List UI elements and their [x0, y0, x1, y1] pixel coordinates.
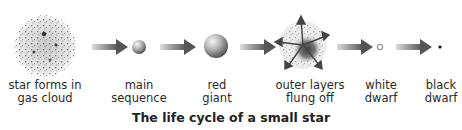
arrow-icon: [396, 39, 432, 55]
red-giant-star-icon: [204, 34, 228, 58]
label-line: flung off: [275, 92, 344, 105]
planetary-nebula-icon: [275, 16, 329, 69]
label-line: giant: [202, 92, 231, 105]
diagram-caption: The life cycle of a small star: [0, 110, 462, 125]
stage-label-red-giant: red giant: [202, 79, 231, 105]
gas-cloud-icon: [12, 13, 78, 79]
arrow-icon: [337, 39, 373, 55]
star-life-cycle-diagram: [0, 0, 462, 80]
white-dwarf-icon: [377, 44, 382, 49]
stage-label-black-dwarf: black dwarf: [425, 79, 458, 105]
arrow-icon: [160, 39, 196, 55]
main-sequence-star-icon: [132, 40, 146, 54]
label-line: sequence: [111, 92, 166, 105]
black-dwarf-icon: [438, 45, 441, 48]
label-line: dwarf: [365, 92, 398, 105]
stage-label-outer-layers: outer layers flung off: [275, 79, 344, 105]
arrow-icon: [240, 39, 276, 55]
stage-label-white-dwarf: white dwarf: [365, 79, 398, 105]
label-line: dwarf: [425, 92, 458, 105]
stage-label-gas-cloud: star forms in gas cloud: [9, 79, 82, 105]
arrow-icon: [92, 39, 128, 55]
label-line: gas cloud: [9, 92, 82, 105]
stage-label-main-sequence: main sequence: [111, 79, 166, 105]
